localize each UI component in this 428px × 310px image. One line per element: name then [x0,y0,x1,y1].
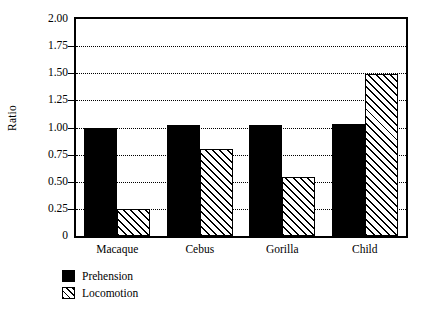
y-axis-tick-mark [68,155,74,156]
legend-label: Locomotion [82,287,138,299]
y-axis-tick-label: 2.00 [34,13,68,24]
bar-gorilla-prehension [249,125,282,236]
bar-macaque-prehension [84,128,117,237]
gridline [76,73,406,74]
y-axis-tick-label: 1.50 [34,67,68,78]
chart-legend: PrehensionLocomotion [62,268,262,302]
y-axis-tick-label: 1.00 [34,122,68,133]
plot-area [74,17,408,238]
legend-swatch-locomotion [62,287,75,299]
bar-gorilla-locomotion [282,177,315,236]
bar-chart-figure: Ratio 2.001.751.501.251.000.750.500.250 … [0,0,428,310]
y-axis-tick-labels: 2.001.751.501.251.000.750.500.250 [30,0,68,310]
y-axis-tick-label: 0 [34,230,68,241]
bar-macaque-locomotion [117,209,150,236]
legend-item: Locomotion [62,285,262,300]
bar-cebus-locomotion [200,149,233,236]
y-axis-tick-mark [68,182,74,183]
x-axis-tick-label: Macaque [96,243,138,255]
y-axis-tick-mark [68,73,74,74]
gridline [76,46,406,47]
bar-cebus-prehension [167,125,200,236]
bar-child-prehension [332,124,365,236]
legend-item: Prehension [62,268,262,283]
y-axis-tick-mark [68,128,74,129]
y-axis-title: Ratio [6,88,18,148]
y-axis-tick-mark [68,100,74,101]
y-axis-tick-label: 0.25 [34,203,68,214]
y-axis-tick-label: 1.75 [34,40,68,51]
plot-inner [76,19,406,236]
y-axis-tick-label: 0.50 [34,176,68,187]
x-axis-tick-label: Cebus [185,243,214,255]
x-axis-tick-label: Gorilla [266,243,299,255]
bar-child-locomotion [365,74,398,236]
legend-swatch-prehension [62,270,75,282]
y-axis-tick-mark [68,46,74,47]
x-axis-tick-label: Child [352,243,378,255]
y-axis-tick-mark [68,209,74,210]
legend-label: Prehension [82,270,133,282]
gridline [76,100,406,101]
y-axis-tick-label: 1.25 [34,94,68,105]
y-axis-tick-label: 0.75 [34,149,68,160]
